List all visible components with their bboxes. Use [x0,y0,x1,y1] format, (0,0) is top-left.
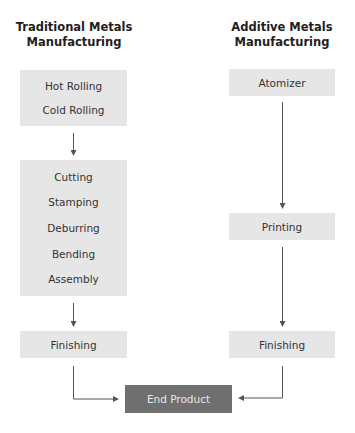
arrow-additive-finishing-to-end [241,366,283,398]
arrow-traditional-finishing-to-end [74,366,117,399]
flow-arrows [0,0,355,433]
